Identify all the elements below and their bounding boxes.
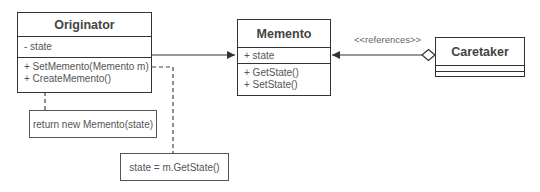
originator-class[interactable]: Originator - state + SetMemento(Memento … <box>17 12 152 93</box>
references-label: <<references>> <box>354 34 421 45</box>
memento-operation: + SetState() <box>244 79 330 91</box>
memento-class-name: Memento <box>238 20 330 48</box>
caretaker-class-name: Caretaker <box>436 38 524 66</box>
originator-attributes: - state <box>18 37 151 58</box>
memento-attribute: + state <box>244 50 330 62</box>
originator-operation: + SetMemento(Memento m) <box>24 61 151 73</box>
originator-attribute: - state <box>24 41 151 53</box>
memento-operation: + GetState() <box>244 67 330 79</box>
caretaker-class[interactable]: Caretaker <box>435 37 525 77</box>
set-memento-note: state = m.GetState() <box>120 153 229 181</box>
memento-attributes: + state <box>238 48 330 64</box>
memento-class[interactable]: Memento + state + GetState() + SetState(… <box>237 19 331 96</box>
memento-operations: + GetState() + SetState() <box>238 64 330 95</box>
originator-class-name: Originator <box>18 13 151 37</box>
aggregation-diamond-icon <box>422 50 435 61</box>
originator-operation: + CreateMemento() <box>24 73 151 85</box>
originator-operations: + SetMemento(Memento m) + CreateMemento(… <box>18 58 151 92</box>
create-memento-note: return new Memento(state) <box>29 110 157 138</box>
caretaker-operations <box>436 72 524 76</box>
